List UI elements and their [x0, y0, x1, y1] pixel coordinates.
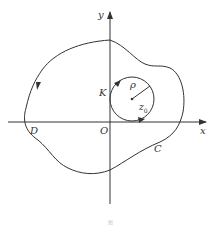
point-d-label: D [30, 126, 38, 136]
center-point [131, 98, 134, 101]
diagram-canvas [0, 0, 214, 226]
x-axis-label: x [200, 126, 206, 136]
contour-direction-arrow-icon [36, 82, 41, 90]
y-axis-label: y [98, 10, 104, 20]
figure-caption: 图 [90, 218, 130, 224]
contour-c-label: C [154, 144, 162, 154]
radius-label: ρ [130, 80, 136, 90]
circle-direction-arrow-top-icon [114, 80, 121, 87]
center-label-subscript: 0 [144, 107, 148, 114]
circle-k-label: K [99, 88, 106, 98]
center-label: z0 [139, 103, 148, 114]
origin-label: O [100, 126, 108, 136]
